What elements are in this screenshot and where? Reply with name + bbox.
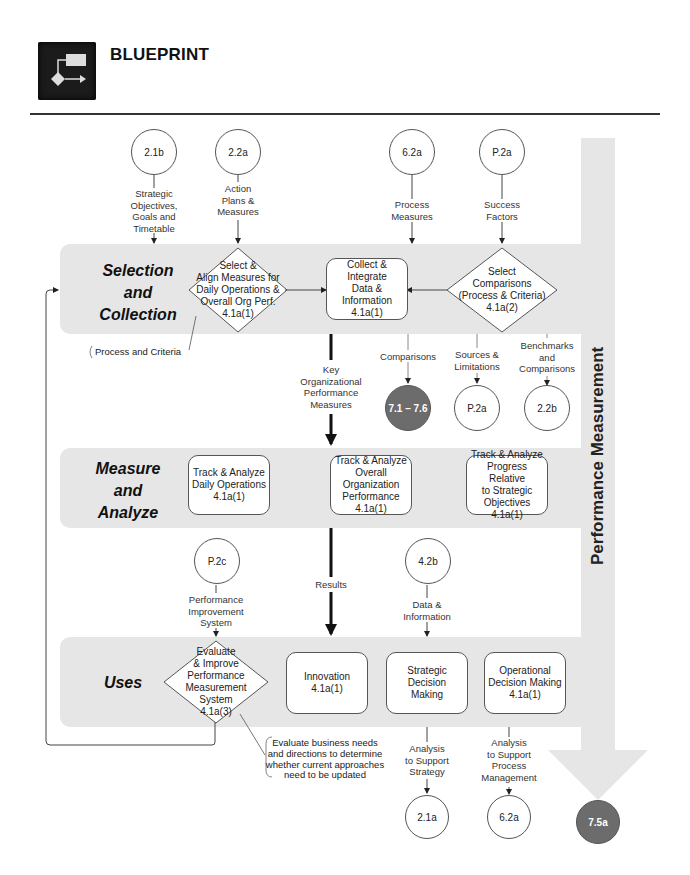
node-select-align-measures[interactable]: Select & Align Measures for Daily Operat… xyxy=(190,260,286,320)
output-label-comparisons: Comparisons xyxy=(370,351,446,363)
ref-circle-p-2a-out[interactable]: P.2a xyxy=(454,385,500,431)
input-label-success-factors: Success Factors xyxy=(462,199,542,222)
ref-circle-p-2c[interactable]: P.2c xyxy=(194,538,240,584)
performance-measurement-label: Performance Measurement xyxy=(588,365,608,565)
results-label: Results xyxy=(301,579,361,591)
output-label-benchmarks: Benchmarks and Comparisons xyxy=(510,340,584,375)
ref-circle-6-2a[interactable]: 6.2a xyxy=(389,129,435,175)
input-label-strategic-objectives: Strategic Objectives, Goals and Timetabl… xyxy=(114,188,194,234)
node-select-comparisons[interactable]: Select Comparisons (Process & Criteria) … xyxy=(450,265,554,315)
node-strategic-decision[interactable]: Strategic Decision Making xyxy=(386,652,468,714)
node-collect-integrate[interactable]: Collect & Integrate Data & Information 4… xyxy=(326,258,408,320)
input-label-data-information: Data & Information xyxy=(387,599,467,622)
ref-circle-2-1b[interactable]: 2.1b xyxy=(131,129,177,175)
callout-process-criteria: Process and Criteria xyxy=(93,346,183,359)
ref-circle-2-2b[interactable]: 2.2b xyxy=(524,385,570,431)
ref-circle-p-2a[interactable]: P.2a xyxy=(479,129,525,175)
output-label-analysis-strategy: Analysis to Support Strategy xyxy=(392,743,462,778)
key-measures-label: Key Organizational Performance Measures xyxy=(291,364,371,410)
ref-circle-7-1-7-6[interactable]: 7.1 – 7.6 xyxy=(385,385,431,431)
input-label-process-measures: Process Measures xyxy=(372,199,452,222)
node-evaluate-improve[interactable]: Evaluate & Improve Performance Measureme… xyxy=(176,646,256,718)
ref-circle-2-2a[interactable]: 2.2a xyxy=(215,129,261,175)
node-track-daily-operations[interactable]: Track & Analyze Daily Operations 4.1a(1) xyxy=(188,455,270,515)
node-track-strategic-progress[interactable]: Track & Analyze Progress Relative to Str… xyxy=(466,455,548,515)
input-label-action-plans: Action Plans & Measures xyxy=(198,183,278,218)
performance-arrowhead xyxy=(548,750,648,800)
ref-circle-4-2b[interactable]: 4.2b xyxy=(405,538,451,584)
ref-circle-2-1a[interactable]: 2.1a xyxy=(405,795,449,839)
output-label-analysis-process: Analysis to Support Process Management xyxy=(474,737,544,783)
node-operational-decision[interactable]: Operational Decision Making 4.1a(1) xyxy=(484,652,566,714)
node-innovation[interactable]: Innovation 4.1a(1) xyxy=(286,652,368,714)
ref-circle-7-5a[interactable]: 7.5a xyxy=(576,800,620,844)
ref-circle-6-2a-out[interactable]: 6.2a xyxy=(487,795,531,839)
callout-evaluate-business-needs: Evaluate business needs and directions t… xyxy=(265,738,385,781)
output-label-sources-limitations: Sources & Limitations xyxy=(440,349,514,372)
node-track-overall-performance[interactable]: Track & Analyze Overall Organization Per… xyxy=(330,455,412,515)
input-label-performance-improvement: Performance Improvement System xyxy=(176,594,256,629)
